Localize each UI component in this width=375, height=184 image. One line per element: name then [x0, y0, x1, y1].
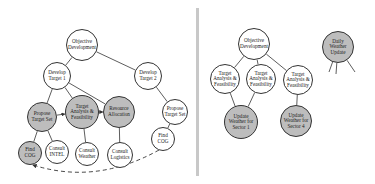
left-node-propose-target-set: Propose Target Set: [27, 102, 57, 132]
node-label: Target Analysis & Feasibility: [284, 72, 312, 89]
panel-divider: [196, 8, 199, 176]
right-node-update-weather-for-sector-1: Update Weather for Sector 1: [224, 105, 258, 139]
right-stub-line-0: [329, 62, 333, 72]
right-node-update-weather-for-sector-4: Update Weather for Sector 4: [280, 105, 312, 137]
node-label: Consult Weather: [76, 148, 98, 159]
left-edge-objective-dt2: [96, 52, 135, 70]
diagram-canvas: Objective DevelopmentDevelop Target 1Dev…: [0, 0, 375, 184]
left-node-consult-intel: Consult INTEL: [45, 140, 69, 164]
left-edge-pts1-cog1: [34, 131, 37, 141]
node-label: Find COG: [19, 147, 41, 158]
node-label: Resource Allocation: [104, 106, 134, 117]
left-node-develop-target-2: Develop Target 2: [134, 62, 162, 90]
left-node-find-cog: Find COG: [18, 141, 42, 165]
node-label: Find COG: [152, 133, 174, 144]
node-label: Target Analysis & Feasibility: [247, 71, 275, 88]
left-node-propose-target-set: Propose Target Set: [162, 99, 188, 125]
left-edge-dt1-pts1: [47, 89, 52, 103]
node-label: Propose Target Set: [163, 106, 187, 117]
node-label: Daily Weather Update: [323, 39, 353, 56]
node-label: Update Weather for Sector 4: [281, 113, 311, 130]
right-edge-taf2-uw1: [248, 93, 255, 107]
node-label: Objective Development: [67, 39, 97, 50]
left-node-develop-target-1: Develop Target 1: [43, 62, 71, 90]
right-stub-line-1: [336, 63, 337, 74]
right-node-target-analysis-and-feasibility: Target Analysis & Feasibility: [246, 64, 276, 94]
right-edge-taf1-uw1: [230, 93, 235, 106]
node-label: Target Analysis & Feasibility: [211, 71, 239, 88]
left-node-resource-allocation: Resource Allocation: [103, 96, 135, 128]
left-node-objective-development: Objective Development: [66, 29, 98, 61]
right-stub-line-2: [347, 60, 355, 72]
node-label: Target Analysis & Feasibility: [66, 104, 98, 121]
left-edge-objective-dt1: [66, 57, 72, 65]
left-edge-dt2-pts2: [156, 87, 167, 101]
left-node-consult-weather: Consult Weather: [75, 142, 99, 166]
right-node-objective-development: Objective Development: [238, 28, 270, 60]
node-label: Propose Target Set: [28, 111, 56, 122]
left-edge-taf-weather: [84, 129, 86, 142]
node-label: Consult Logistics: [108, 149, 132, 160]
right-node-target-analysis-and-feasibility: Target Analysis & Feasibility: [210, 64, 240, 94]
left-node-find-cog: Find COG: [151, 127, 175, 151]
left-node-target-analysis-and-feasibility: Target Analysis & Feasibility: [65, 95, 99, 129]
left-edge-dt1-taf: [65, 87, 72, 98]
node-label: Develop Target 2: [135, 70, 161, 81]
node-label: Objective Development: [239, 38, 269, 49]
left-node-consult-logistics: Consult Logistics: [107, 142, 133, 168]
node-label: Develop Target 1: [44, 70, 70, 81]
left-arrow-pts1-taf: [57, 114, 65, 115]
left-edge-pts1-intel: [48, 131, 52, 141]
node-label: Update Weather for Sector 1: [225, 114, 257, 131]
right-node-daily-weather-update: Daily Weather Update: [322, 31, 354, 63]
node-label: Consult INTEL: [46, 146, 68, 157]
right-edge-objective-taf1: [235, 56, 244, 67]
right-node-target-analysis-and-feasibility: Target Analysis & Feasibility: [283, 65, 313, 95]
